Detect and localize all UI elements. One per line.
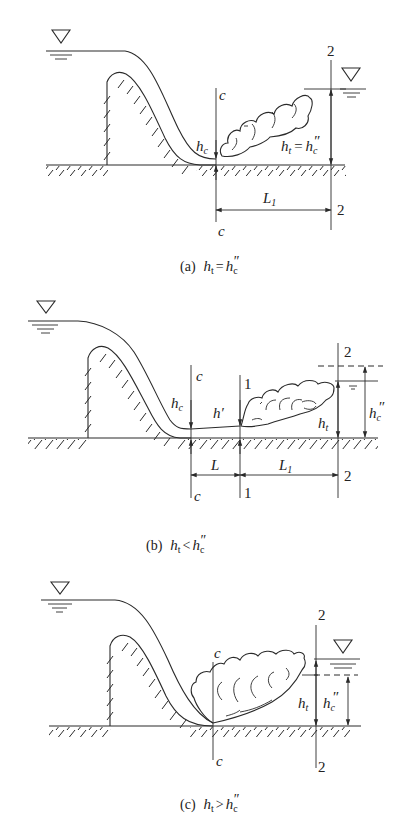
floor-hatching-right [196, 166, 346, 176]
hc-double-prime-label: hc″ [323, 689, 339, 713]
water-surface-profile [46, 51, 216, 159]
section-c-bottom-label: c [216, 753, 223, 769]
section-2-bottom-label: 2 [337, 202, 345, 218]
spillway-hatching [85, 354, 170, 446]
panel-b: c c hc 1 1 h′ 2 2 ht hc″ L L1 (b)ht<hc″ [28, 301, 385, 555]
section-2-bottom-label: 2 [344, 468, 352, 484]
section-c-top-label: c [196, 368, 203, 384]
section-c-top-label: c [219, 87, 226, 103]
ht-label: ht [318, 415, 329, 433]
water-surface-profile [28, 321, 240, 429]
section-2-top-label: 2 [318, 607, 326, 623]
floor-hatching-left [28, 439, 89, 449]
section-c-top-label: c [214, 645, 221, 661]
caption-b: (b)ht<hc″ [146, 533, 206, 555]
water-level-symbol-tailwater [349, 386, 357, 389]
section-1-bottom-label: 1 [244, 485, 252, 501]
panel-a: c c hc 2 2 ht=hc″ L1 (a)ht=hc″ [46, 30, 366, 276]
section-2-bottom-label: 2 [318, 759, 326, 775]
water-level-symbol-upstream [48, 582, 72, 612]
caption-a: (a)ht=hc″ [180, 254, 240, 276]
h-prime-label: h′ [213, 405, 225, 421]
caption-c: (c)ht>hc″ [180, 792, 240, 814]
section-c-bottom-label: c [218, 223, 225, 239]
section-2-top-label: 2 [327, 43, 335, 59]
hydraulic-jump-diagram: c c hc 2 2 ht=hc″ L1 (a)ht=hc″ [0, 0, 410, 837]
hc-label: hc [171, 395, 184, 413]
water-surface-profile [41, 600, 213, 723]
water-level-symbol-tailwater [340, 68, 366, 97]
L1-label: L1 [278, 457, 292, 475]
section-1-top-label: 1 [244, 376, 252, 392]
water-level-symbol-upstream [32, 301, 58, 333]
water-level-symbol-upstream [50, 30, 72, 59]
floor-hatching-right [190, 727, 350, 737]
floor-hatching-left [49, 727, 111, 737]
floor-hatching-left [46, 166, 108, 176]
spillway-surface [110, 635, 213, 726]
water-level-symbol-tailwater [330, 640, 356, 668]
section-2-top-label: 2 [344, 344, 352, 360]
section-c-bottom-label: c [194, 488, 201, 504]
panel-c: c c 2 2 ht hc″ (c)ht>hc″ [41, 582, 361, 814]
ht-label: ht [298, 695, 309, 713]
hc-label: hc [196, 138, 209, 156]
submerged-hydraulic-jump-roller [191, 650, 318, 723]
hc-double-prime-label: hc″ [369, 399, 385, 423]
floor-hatching-right [178, 439, 378, 449]
L1-label: L1 [262, 190, 276, 208]
ht-equals-hc2-label: ht=hc″ [281, 133, 320, 156]
spillway-hatching [104, 80, 188, 174]
L-label: L [210, 457, 219, 473]
